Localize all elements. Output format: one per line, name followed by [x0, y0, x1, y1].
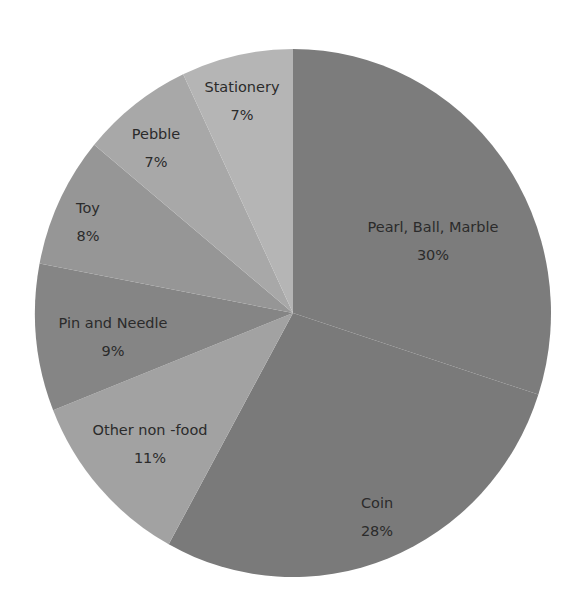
pie-chart: Pearl, Ball, Marble30% Coin28% Other non… [0, 0, 587, 615]
pie-slices [35, 49, 551, 577]
